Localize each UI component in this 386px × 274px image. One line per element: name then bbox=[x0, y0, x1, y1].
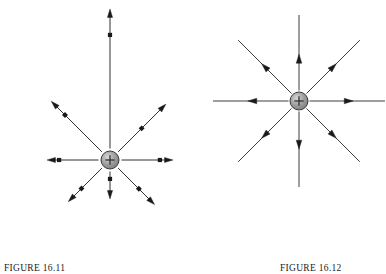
figure-16-12-field-line-up-left bbox=[238, 40, 291, 93]
vector-arrowhead bbox=[47, 157, 56, 162]
vector-arrowhead bbox=[107, 9, 112, 18]
figure-16-12-field-line-right bbox=[310, 98, 386, 104]
field-line-arrowhead bbox=[296, 54, 302, 63]
vector-arrowhead bbox=[165, 157, 174, 162]
vector-arrowhead bbox=[107, 191, 112, 200]
figure-16-12: FIGURE 16.12 bbox=[196, 0, 386, 274]
vector-marker-dot bbox=[158, 158, 162, 162]
figure-16-11-vector-down-left bbox=[68, 168, 102, 202]
vector-marker-dot bbox=[108, 177, 112, 181]
figure-16-11-vector-up bbox=[107, 9, 112, 149]
figure-16-12-field-line-up-right bbox=[306, 40, 359, 93]
figure-16-11-diagram bbox=[0, 0, 200, 274]
vector-shaft bbox=[55, 105, 102, 152]
vector-marker-dot bbox=[57, 158, 61, 162]
field-line-arrowhead bbox=[248, 98, 257, 104]
figure-16-11-vector-left bbox=[47, 157, 99, 162]
figure-16-11-caption: FIGURE 16.11 bbox=[4, 263, 65, 274]
figure-16-11: FIGURE 16.11 bbox=[0, 0, 200, 274]
figure-16-11-vector-up-left bbox=[51, 101, 102, 152]
point-charge bbox=[290, 92, 308, 110]
vector-shaft bbox=[72, 168, 102, 198]
figure-16-11-vector-up-right bbox=[118, 104, 166, 152]
figure-16-11-vector-down bbox=[107, 172, 112, 200]
vector-shaft bbox=[118, 168, 151, 201]
figure-16-12-field-line-up bbox=[296, 15, 302, 91]
figure-16-12-diagram bbox=[196, 0, 386, 274]
figure-16-12-field-line-down-left bbox=[238, 108, 291, 161]
figure-16-12-caption: FIGURE 16.12 bbox=[280, 263, 342, 274]
figure-page: FIGURE 16.11 FIGURE 16.12 bbox=[0, 0, 386, 274]
field-line-arrowhead bbox=[296, 140, 302, 149]
point-charge bbox=[101, 151, 119, 169]
figure-16-11-vector-right bbox=[122, 157, 174, 162]
field-line-arrowhead bbox=[344, 98, 353, 104]
figure-16-12-field-line-down bbox=[296, 112, 302, 188]
figure-16-11-vector-down-right bbox=[118, 168, 154, 204]
figure-16-12-field-line-down-right bbox=[306, 108, 359, 161]
figure-16-12-field-line-left bbox=[213, 98, 289, 104]
vector-marker-dot bbox=[108, 33, 112, 37]
